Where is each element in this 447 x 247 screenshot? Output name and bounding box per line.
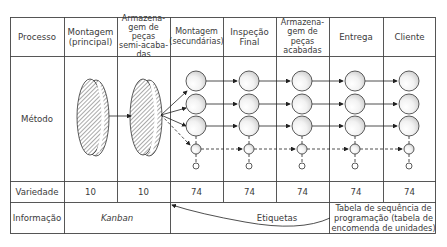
variety-value: 10 <box>64 181 117 202</box>
header-cliente: Cliente <box>383 17 436 56</box>
variety-value: 74 <box>276 181 329 202</box>
row-label-metodo: Método <box>10 56 64 181</box>
unit-balls <box>186 71 419 169</box>
info-schedule-table: Tabela de sequência de programação (tabe… <box>330 202 437 234</box>
semi-finished-storage-disk-icon <box>130 79 162 156</box>
info-etiquetas: Etiquetas <box>225 202 329 234</box>
info-kanban: Kanban <box>64 202 170 234</box>
header-armazenagem-acabadas: Armazena-gem de peçasacabadas <box>276 17 329 56</box>
variety-value: 10 <box>117 181 170 202</box>
header-montagem-principal: Montagem(principal) <box>64 17 117 56</box>
header-armazenagem-semi: Armazena-gem de peçassemi-acaba-das <box>117 17 170 56</box>
header-processo: Processo <box>10 17 64 56</box>
header-inspecao-final: InspeçãoFinal <box>223 17 276 56</box>
row-label-variedade: Variedade <box>10 181 64 202</box>
row-label-informacao: Informação <box>10 202 64 234</box>
variety-value: 74 <box>170 181 223 202</box>
variety-value: 74 <box>329 181 383 202</box>
variety-value: 74 <box>383 181 436 202</box>
variety-value: 74 <box>223 181 276 202</box>
main-assembly-disk-icon <box>77 79 109 156</box>
header-montagem-secundarias: Montagem(secundárias) <box>170 17 223 56</box>
header-entrega: Entrega <box>329 17 383 56</box>
